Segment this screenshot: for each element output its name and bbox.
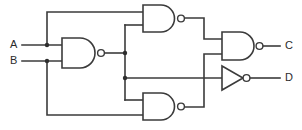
gate-nand-2[interactable] <box>143 5 184 32</box>
wire-b-branch-to-bottom-gate <box>47 61 143 115</box>
logic-circuit-diagram: A B C D <box>0 0 302 130</box>
gate-nand-4-body <box>222 32 254 60</box>
junction-dot-n1-mid <box>123 76 127 80</box>
gate-nand-1[interactable] <box>62 38 104 68</box>
gate-nand-3-body <box>143 93 175 120</box>
gate-nand-3-bubble-icon <box>178 103 185 110</box>
junction-dot-a <box>45 43 49 47</box>
gate-not-1-body <box>222 66 243 90</box>
gate-nand-2-bubble-icon <box>178 15 185 22</box>
gate-not-1-bubble-icon <box>243 75 250 82</box>
wire-top-gate-to-right-gate <box>185 18 222 39</box>
gate-nand-2-body <box>143 5 175 32</box>
gate-not-1[interactable] <box>222 66 250 90</box>
wire-bottom-gate-to-right-gate <box>185 54 222 107</box>
gate-nand-1-bubble-icon <box>98 50 105 57</box>
input-label-a: A <box>10 38 18 50</box>
junction-dot-n1-top <box>123 51 127 55</box>
output-label-c: C <box>285 39 293 51</box>
gate-nand-3[interactable] <box>143 93 184 120</box>
gate-nand-4[interactable] <box>222 32 263 60</box>
output-label-d: D <box>285 71 293 83</box>
input-label-b: B <box>10 54 17 66</box>
junction-dot-b <box>45 59 49 63</box>
circuit-canvas: A B C D <box>0 0 302 130</box>
gate-nand-4-bubble-icon <box>256 43 263 50</box>
gate-nand-1-body <box>62 38 95 68</box>
